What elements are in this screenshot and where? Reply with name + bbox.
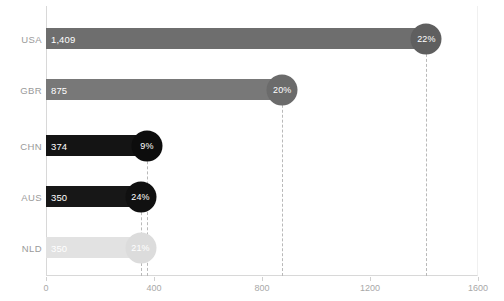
percent-label-nld: 21%	[131, 243, 149, 253]
category-label-gbr: GBR	[20, 85, 42, 96]
x-tick-label-400: 400	[146, 283, 161, 293]
x-tick-800	[262, 277, 263, 281]
x-tick-label-1600: 1600	[468, 283, 488, 293]
category-label-aus: AUS	[21, 192, 42, 203]
endcap-aus[interactable]: 24%	[125, 181, 156, 212]
value-label-gbr: 875	[51, 84, 67, 95]
bar-group-aus[interactable]: 24%350	[46, 186, 161, 207]
bar-group-nld[interactable]: 21%350	[46, 237, 161, 258]
x-tick-0	[46, 277, 47, 281]
value-label-chn: 374	[51, 140, 67, 151]
bar-chart: 22%1,40920%8759%37424%35021%350 USAGBRCH…	[0, 0, 504, 301]
bar-group-usa[interactable]: 22%1,409	[46, 28, 446, 49]
bar-group-gbr[interactable]: 20%875	[46, 79, 302, 100]
value-label-usa: 1,409	[51, 33, 75, 44]
endcap-usa[interactable]: 22%	[411, 23, 442, 54]
x-tick-label-800: 800	[254, 283, 269, 293]
dropline-usa	[426, 39, 427, 277]
bar-group-chn[interactable]: 9%374	[46, 135, 167, 156]
category-label-chn: CHN	[20, 141, 42, 152]
endcap-chn[interactable]: 9%	[131, 130, 162, 161]
percent-label-aus: 24%	[131, 192, 149, 202]
x-tick-1600	[478, 277, 479, 281]
value-label-nld: 350	[51, 242, 67, 253]
x-tick-1200	[370, 277, 371, 281]
bar-gbr[interactable]	[46, 79, 282, 100]
endcap-gbr[interactable]: 20%	[267, 74, 298, 105]
x-tick-label-0: 0	[43, 283, 48, 293]
percent-label-gbr: 20%	[273, 85, 291, 95]
category-label-nld: NLD	[22, 243, 42, 254]
category-label-usa: USA	[21, 34, 42, 45]
x-tick-400	[154, 277, 155, 281]
value-label-aus: 350	[51, 191, 67, 202]
dropline-gbr	[282, 90, 283, 277]
bar-usa[interactable]	[46, 28, 426, 49]
endcap-nld[interactable]: 21%	[125, 232, 156, 263]
x-tick-label-1200: 1200	[360, 283, 380, 293]
percent-label-chn: 9%	[140, 141, 153, 151]
percent-label-usa: 22%	[417, 34, 435, 44]
